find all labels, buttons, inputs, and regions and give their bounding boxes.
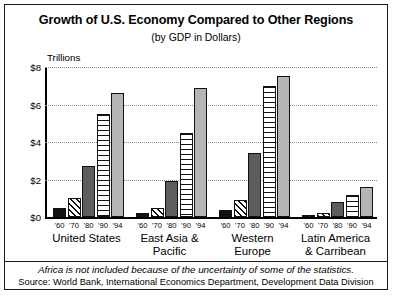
bar [302, 215, 315, 217]
chart-subtitle: (by GDP in Dollars) [5, 32, 387, 43]
x-axis-year-label: '80 [82, 221, 95, 230]
x-axis-year-label: '94 [194, 221, 207, 230]
x-axis-year-label: '60 [219, 221, 232, 230]
bar [277, 76, 290, 217]
bar-group-year-labels: '60'70'80'90'94 [136, 221, 207, 232]
category-label-line: & Carribean [288, 245, 383, 258]
x-axis-year-label: '80 [165, 221, 178, 230]
x-axis-year-label: '94 [360, 221, 373, 230]
y-axis-tick-label: $4 [11, 137, 41, 148]
bar-group-year-labels: '60'70'80'90'94 [302, 221, 373, 232]
bar-group-year-labels: '60'70'80'90'94 [53, 221, 124, 232]
x-axis-category-label: United States [39, 232, 134, 245]
bar [317, 213, 330, 217]
bar [97, 114, 110, 217]
bar-group [136, 67, 207, 217]
plot-area: $0$2$4$6$8 [45, 67, 377, 217]
chart-footnote: Africa is not included because of the un… [5, 264, 387, 275]
category-label-line: United States [39, 232, 134, 245]
bar [219, 210, 232, 218]
bar [248, 153, 261, 217]
bar-group [53, 67, 124, 217]
x-axis-line [45, 217, 377, 219]
bar [68, 198, 81, 217]
x-axis-year-label: '80 [331, 221, 344, 230]
x-axis-year-label: '80 [248, 221, 261, 230]
bar-group [219, 67, 290, 217]
bar-group [302, 67, 373, 217]
x-axis-year-label: '90 [97, 221, 110, 230]
x-axis-year-label: '70 [68, 221, 81, 230]
bar [263, 86, 276, 217]
x-axis-category-label: East Asia &Pacific [122, 232, 217, 257]
category-label-line: Latin America [288, 232, 383, 245]
chart-figure: Growth of U.S. Economy Compared to Other… [4, 4, 388, 290]
footer-divider [5, 261, 387, 262]
category-label-line: East Asia & [122, 232, 217, 245]
x-axis-year-label: '90 [180, 221, 193, 230]
x-axis-year-label: '60 [53, 221, 66, 230]
bar [82, 166, 95, 217]
x-axis-category-label: WesternEurope [205, 232, 300, 257]
category-label-line: Europe [205, 245, 300, 258]
x-axis-year-label: '70 [317, 221, 330, 230]
y-axis-tick-label: $6 [11, 99, 41, 110]
x-axis-year-label: '60 [302, 221, 315, 230]
bar [194, 88, 207, 217]
bar [53, 208, 66, 217]
x-axis-year-label: '94 [277, 221, 290, 230]
bar [151, 208, 164, 217]
bar [331, 202, 344, 217]
bar [165, 181, 178, 217]
y-axis-tick-label: $0 [11, 212, 41, 223]
x-axis-year-label: '70 [151, 221, 164, 230]
y-axis-tick-label: $2 [11, 174, 41, 185]
x-axis-year-label: '90 [263, 221, 276, 230]
bar [234, 200, 247, 217]
y-axis-unit-label: Trillions [47, 52, 80, 63]
bar [180, 133, 193, 217]
category-label-line: Western [205, 232, 300, 245]
bar [136, 213, 149, 217]
chart-title: Growth of U.S. Economy Compared to Other… [5, 13, 387, 27]
category-label-line: Pacific [122, 245, 217, 258]
bar [360, 187, 373, 217]
y-axis-tick-label: $8 [11, 62, 41, 73]
x-axis-year-label: '70 [234, 221, 247, 230]
x-axis-year-label: '60 [136, 221, 149, 230]
x-axis-year-label: '94 [111, 221, 124, 230]
x-axis-year-label: '90 [346, 221, 359, 230]
bar-group-year-labels: '60'70'80'90'94 [219, 221, 290, 232]
chart-source: Source: World Bank, International Econom… [5, 277, 387, 287]
bar [346, 195, 359, 218]
x-axis-category-label: Latin America& Carribean [288, 232, 383, 257]
bar [111, 93, 124, 217]
